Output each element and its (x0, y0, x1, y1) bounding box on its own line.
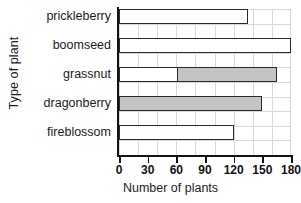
category-label-grassnut: grassnut (63, 67, 111, 82)
bar-dragonberry (119, 96, 262, 111)
x-tick-label-150: 150 (247, 163, 277, 177)
y-axis-line (117, 7, 119, 157)
bar-shaded-segment (177, 68, 276, 81)
x-tick-label-60: 60 (161, 163, 191, 177)
bar-boomseed (119, 38, 291, 53)
category-label-boomseed: boomseed (53, 38, 111, 53)
bar-chart-figure: Type of plant prickleberry boomseed gras… (0, 0, 301, 203)
x-tick-label-0: 0 (104, 163, 134, 177)
bars-layer (119, 9, 291, 155)
bar-fireblossom (119, 125, 234, 140)
category-label-dragonberry: dragonberry (44, 96, 111, 111)
x-tick-label-90: 90 (190, 163, 220, 177)
x-tick-label-30: 30 (133, 163, 163, 177)
x-axis-title: Number of plants (0, 181, 301, 195)
x-tick-label-180: 180 (276, 163, 301, 177)
category-label-fireblossom: fireblossom (47, 125, 111, 140)
x-tick-label-120: 120 (219, 163, 249, 177)
bar-grassnut (119, 67, 277, 82)
category-label-prickleberry: prickleberry (46, 9, 111, 24)
plot-area (119, 9, 291, 155)
bar-prickleberry (119, 9, 248, 24)
category-axis-labels: prickleberry boomseed grassnut dragonber… (18, 9, 114, 155)
x-axis-tick-labels: 0306090120150180 (119, 163, 291, 178)
